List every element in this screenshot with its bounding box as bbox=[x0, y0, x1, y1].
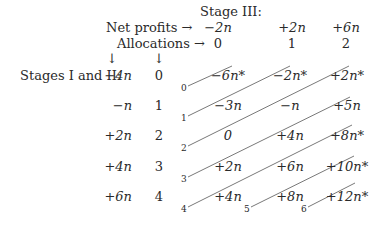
grid-cell: +2n* bbox=[322, 69, 372, 83]
diagonal-label: 3 bbox=[181, 174, 187, 184]
diagonal-label: 2 bbox=[181, 143, 187, 153]
grid-cell: +6n bbox=[265, 160, 315, 174]
grid-cell: −n bbox=[265, 99, 315, 113]
grid-cell: +4n bbox=[203, 190, 253, 204]
grid-cell: +2n bbox=[203, 160, 253, 174]
grid-cell: +8n* bbox=[322, 129, 372, 143]
diagonal-label: 0 bbox=[181, 83, 187, 93]
grid-cell: +12n* bbox=[322, 190, 372, 204]
grid-cell: +4n bbox=[265, 129, 315, 143]
grid-cell: −2n* bbox=[265, 69, 315, 83]
grid-cell: +10n* bbox=[322, 160, 372, 174]
diagonal-label: 6 bbox=[301, 204, 307, 214]
grid-cell: +5n bbox=[322, 99, 372, 113]
grid-cell: 0 bbox=[203, 129, 253, 143]
grid-cell: +8n bbox=[265, 190, 315, 204]
grid-cell: −3n bbox=[203, 99, 253, 113]
diagonal-label: 5 bbox=[244, 204, 250, 214]
diagonal-label: 1 bbox=[181, 113, 187, 123]
grid-cell: −6n* bbox=[203, 69, 253, 83]
diagonal-label: 4 bbox=[181, 204, 187, 214]
